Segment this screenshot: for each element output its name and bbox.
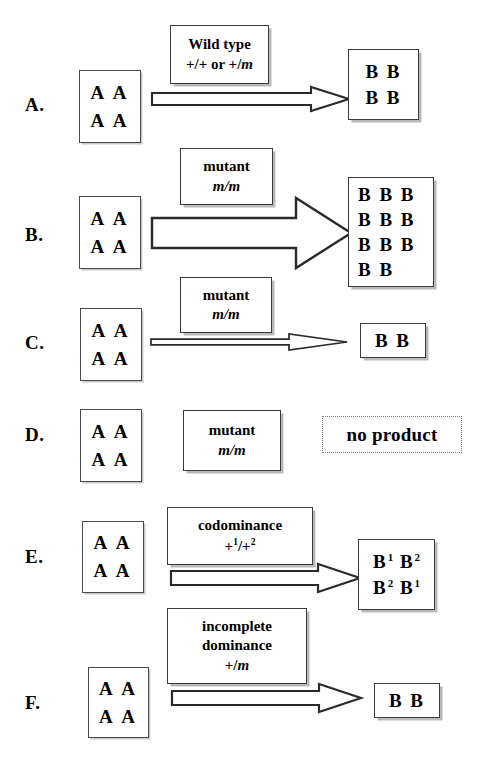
arrow-a-medium [151,86,351,112]
arrow-e-medium [170,562,362,594]
arrow-f-medium [171,682,363,714]
gene-allele-line: A A [91,345,130,373]
product-line: B B B [349,182,433,207]
product-box-c: B B [360,323,426,358]
product-line: B B [349,59,418,84]
arrow-c-thin [150,332,350,352]
product-line: B B B [349,232,433,257]
gene-box-e: A A A A [82,521,144,593]
gene-allele-line: A A [91,446,130,474]
gene-box-b: A A A A [79,196,141,269]
label-line-title-2: dominance [202,636,272,655]
row-letter-a: A. [25,95,44,114]
label-line-title: codominance [198,516,282,535]
label-box-c: mutant m/m [180,277,272,333]
label-box-e: codominance +1/+2 [167,507,313,565]
row-letter-d: D. [25,425,44,444]
product-line: B B B [349,207,433,232]
no-product-box-d: no product [322,416,462,453]
gene-allele-line: A A [90,233,129,261]
gene-allele-line: A A [93,529,132,557]
product-line: B2 B1 [359,575,434,600]
row-letter-b: B. [25,225,43,244]
label-box-d: mutant m/m [183,410,281,471]
label-line-title: mutant [203,157,250,176]
label-box-f: incomplete dominance +/m [167,608,307,684]
diagram-canvas: A. A A A A Wild type +/+ or +/m B B B B … [0,0,484,758]
row-letter-f: F. [25,693,41,712]
gene-box-d: A A A A [80,409,142,482]
product-line: B B [361,328,425,353]
no-product-label: no product [347,424,438,446]
label-line-title: mutant [209,421,256,440]
product-line: B B [349,257,433,282]
gene-allele-line: A A [91,317,130,345]
gene-allele-line: A A [99,703,138,731]
label-line-genotype: +/+ or +/m [186,55,253,74]
label-line-genotype: m/m [213,177,241,196]
label-line-genotype: m/m [218,441,246,460]
row-letter-e: E. [25,547,43,566]
label-line-genotype: +/m [225,656,249,675]
product-line: B1 B2 [359,549,434,574]
gene-allele-line: A A [93,557,132,585]
gene-allele-line: A A [91,418,130,446]
product-line: B B [375,688,439,713]
product-box-e: B1 B2 B2 B1 [358,539,435,610]
label-line-title: incomplete [202,617,272,636]
product-box-f: B B [374,683,440,718]
label-line-genotype: +1/+2 [225,536,256,556]
gene-allele-line: A A [90,107,129,135]
gene-allele-line: A A [90,205,129,233]
row-letter-c: C. [25,333,44,352]
label-line-title: mutant [203,286,250,305]
label-line-genotype: m/m [212,305,240,324]
product-box-a: B B B B [348,49,419,120]
gene-box-f: A A A A [88,667,149,738]
product-box-b: B B B B B B B B B B B [348,177,434,287]
arrow-b-thick [151,196,353,272]
product-line: B B [349,85,418,110]
gene-box-a: A A A A [79,70,141,143]
gene-allele-line: A A [99,675,138,703]
gene-allele-line: A A [90,79,129,107]
label-line-title: Wild type [188,35,251,54]
label-box-a: Wild type +/+ or +/m [170,25,269,84]
gene-box-c: A A A A [80,308,142,381]
